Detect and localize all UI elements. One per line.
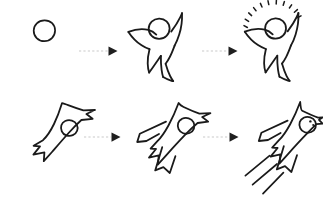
sparkle-ray-6 [268,1,269,5]
canvas-background [0,0,323,200]
storyboard-illustration [0,0,323,200]
rocket-flying-window-dot-1 [309,120,311,122]
storyboard-canvas: Stick figure progression Circle Stick fi… [0,0,323,200]
rocket-flying-window-dot-2 [312,124,314,126]
